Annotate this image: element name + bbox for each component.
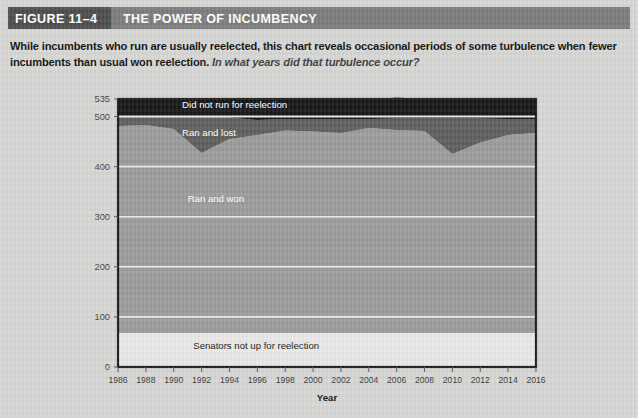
series-label-1: Ran and lost xyxy=(182,127,236,138)
x-tick-label-1990: 1990 xyxy=(164,375,183,385)
figure-number-label: FIGURE 11–4 xyxy=(15,11,97,26)
x-axis: 1986198819901992199419961998200020022004… xyxy=(108,367,545,385)
figure-title-label: THE POWER OF INCUMBENCY xyxy=(123,11,317,26)
x-tick-label-2008: 2008 xyxy=(415,375,434,385)
y-axis: 0100200300400500535 xyxy=(94,94,118,372)
x-tick-label-1998: 1998 xyxy=(276,375,295,385)
figure-header: FIGURE 11–4 THE POWER OF INCUMBENCY xyxy=(8,7,630,29)
x-tick-label-1986: 1986 xyxy=(108,375,127,385)
stacked-area-chart: 0100200300400500535 19861988199019921994… xyxy=(8,87,630,411)
figure-title-block: THE POWER OF INCUMBENCY xyxy=(111,7,630,29)
x-tick-label-1992: 1992 xyxy=(192,375,211,385)
x-tick-label-1988: 1988 xyxy=(136,375,155,385)
x-tick-label-2016: 2016 xyxy=(526,375,545,385)
x-axis-title: Year xyxy=(317,392,338,403)
area-series-1 xyxy=(118,125,536,333)
y-tick-label-300: 300 xyxy=(94,212,110,222)
chart-series-group xyxy=(118,98,536,368)
x-tick-label-2006: 2006 xyxy=(387,375,406,385)
x-tick-label-2014: 2014 xyxy=(499,375,518,385)
series-label-0: Did not run for reelection xyxy=(182,99,287,110)
chart-container: 0100200300400500535 19861988199019921994… xyxy=(8,87,630,411)
x-tick-label-2010: 2010 xyxy=(443,375,462,385)
x-tick-label-2002: 2002 xyxy=(331,375,350,385)
y-tick-label-500: 500 xyxy=(94,112,110,122)
x-tick-label-2012: 2012 xyxy=(471,375,490,385)
figure-number-block: FIGURE 11–4 xyxy=(8,7,111,29)
y-tick-label-200: 200 xyxy=(94,262,110,272)
y-tick-label-100: 100 xyxy=(94,312,110,322)
area-series-0 xyxy=(118,333,536,367)
figure-caption: While incumbents who run are usually ree… xyxy=(10,39,628,71)
figure-card: FIGURE 11–4 THE POWER OF INCUMBENCY Whil… xyxy=(8,7,630,411)
series-label-2: Ran and won xyxy=(188,193,245,204)
caption-question-text: In what years did that turbulence occur? xyxy=(212,56,419,68)
x-tick-label-2004: 2004 xyxy=(359,375,378,385)
series-label-3: Senators not up for reelection xyxy=(193,340,319,351)
x-tick-label-2000: 2000 xyxy=(304,375,323,385)
x-tick-label-1996: 1996 xyxy=(248,375,267,385)
y-tick-label-400: 400 xyxy=(94,162,110,172)
y-tick-label-0: 0 xyxy=(105,362,110,372)
x-tick-label-1994: 1994 xyxy=(220,375,239,385)
y-tick-label-535: 535 xyxy=(94,94,110,104)
